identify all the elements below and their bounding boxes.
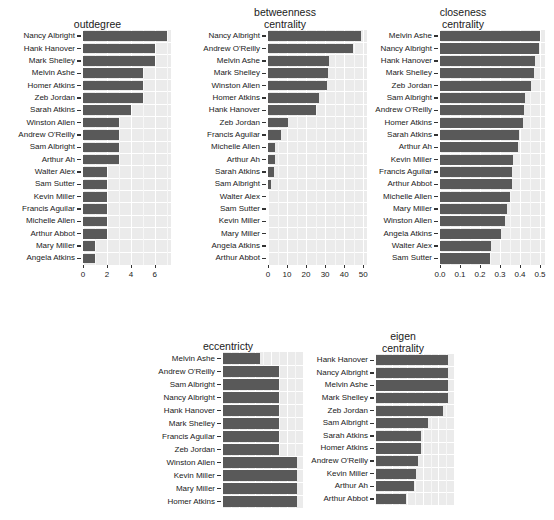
bar	[376, 469, 416, 479]
bar-fill	[376, 443, 421, 453]
chart-title-closeness-centrality: closeness centrality	[372, 6, 554, 30]
bar-fill	[83, 180, 107, 190]
y-axis-label: Mary Miller	[195, 228, 268, 240]
bar	[440, 43, 539, 53]
bar-fill	[223, 496, 297, 507]
y-axis-label: Michelle Allen	[195, 141, 268, 153]
bar	[83, 68, 143, 78]
grid-line-horizontal	[268, 239, 367, 240]
bar	[223, 496, 297, 507]
y-axis-tick-mark	[262, 221, 266, 222]
y-axis-label-text: Sam Sutter	[392, 254, 432, 262]
x-axis-tick-label: 10	[283, 269, 292, 280]
y-axis-label: Hank Hanover	[303, 354, 376, 367]
y-axis-labels-outdegree: Nancy AlbrightHank HanoverMark ShelleyMe…	[0, 30, 83, 265]
y-axis-label-text: Winston Allen	[384, 217, 432, 225]
y-axis-label: Kevin Miller	[133, 469, 223, 482]
grid-line-horizontal	[268, 54, 367, 55]
y-axis-label-text: Hank Hanover	[317, 356, 368, 364]
y-axis-label-text: Melvin Ashe	[325, 381, 368, 389]
y-axis-tick-mark	[77, 97, 81, 98]
chart-panel-eigen-centrality: eigen centrality Hank HanoverNancy Albri…	[303, 330, 503, 505]
y-axis-label: Sarah Atkins	[372, 129, 440, 141]
y-axis-label: Angela Atkins	[195, 240, 268, 252]
y-axis-label-text: Melvin Ashe	[172, 355, 215, 363]
chart-panel-betweenness-centrality: betweenness centrality Nancy AlbrightAnd…	[195, 6, 375, 281]
y-axis-label-text: Sam Sutter	[35, 180, 75, 188]
grid-line-horizontal	[83, 42, 171, 43]
bar-fill	[376, 481, 414, 491]
y-axis-tick-mark	[77, 208, 81, 209]
y-axis-label: Andrew O'Reilly	[303, 455, 376, 468]
y-axis-label: Zeb Jordan	[133, 443, 223, 456]
bar	[440, 229, 501, 239]
y-axis-tick-mark	[262, 73, 266, 74]
y-axis-tick-mark	[370, 385, 374, 386]
x-axis-tick-label: 40	[340, 269, 349, 280]
grid-line-horizontal	[83, 215, 171, 216]
y-axis-label: Mary Miller	[0, 240, 83, 252]
bar-fill	[83, 118, 119, 128]
y-axis-label-text: Zeb Jordan	[328, 407, 368, 415]
y-axis-tick-mark	[77, 258, 81, 259]
y-axis-label: Francis Aguilar	[372, 166, 440, 178]
y-axis-label: Francis Aguilar	[195, 129, 268, 141]
bar	[223, 444, 279, 455]
bar-fill	[440, 130, 519, 140]
y-axis-label: Melvin Ashe	[0, 67, 83, 79]
y-axis-tick-mark	[217, 410, 221, 411]
y-axis-tick-mark	[77, 147, 81, 148]
x-axis-closeness-centrality: 0.00.10.20.30.40.5	[440, 265, 545, 281]
y-axis-label: Walter Alex	[195, 190, 268, 202]
x-axis-tick-mark	[131, 265, 132, 269]
grid-line-horizontal	[268, 141, 367, 142]
y-axis-tick-mark	[370, 410, 374, 411]
grid-line-horizontal	[83, 91, 171, 92]
y-axis-label-text: Francis Aguilar	[162, 433, 215, 441]
y-axis-label: Kevin Miller	[0, 190, 83, 202]
bar-fill	[83, 204, 107, 214]
y-axis-label: Mary Miller	[133, 482, 223, 495]
y-axis-tick-mark	[217, 384, 221, 385]
bar	[83, 118, 119, 128]
bar-fill	[83, 81, 143, 91]
bar-fill	[83, 192, 107, 202]
y-axis-label: Sam Sutter	[0, 178, 83, 190]
y-axis-label-text: Andrew O'Reilly	[311, 457, 368, 465]
x-axis-tick-mark	[500, 265, 501, 269]
y-axis-label-text: Arthur Abbot	[388, 180, 432, 188]
bar	[268, 68, 328, 78]
y-axis-label-text: Kevin Miller	[174, 472, 215, 480]
y-axis-label-text: Nancy Albright	[23, 32, 75, 40]
bar-fill	[440, 241, 491, 251]
y-axis-labels-betweenness-centrality: Nancy AlbrightAndrew O'ReillyMelvin Ashe…	[195, 30, 268, 265]
y-axis-label: Nancy Albright	[195, 30, 268, 42]
y-axis-tick-mark	[370, 360, 374, 361]
grid-line-major	[363, 30, 364, 265]
y-axis-label: Michelle Allen	[372, 190, 440, 202]
y-axis-label-text: Hank Hanover	[381, 57, 432, 65]
bar-fill	[376, 406, 443, 416]
bar-fill	[440, 216, 505, 226]
y-axis-label-text: Sam Albright	[170, 381, 215, 389]
bar	[223, 379, 279, 390]
y-axis-label-text: Francis Aguilar	[207, 131, 260, 139]
y-axis-label-text: Mark Shelley	[322, 394, 368, 402]
y-axis-label: Sam Albright	[372, 92, 440, 104]
bar-fill	[376, 469, 416, 479]
grid-line-horizontal	[83, 128, 171, 129]
x-axis-tick-label: 0.2	[474, 269, 485, 280]
grid-line-horizontal	[83, 67, 171, 68]
bar	[223, 418, 279, 429]
y-axis-label: Andrew O'Reilly	[195, 42, 268, 54]
plot-area-outdegree	[83, 30, 171, 265]
y-axis-label: Kevin Miller	[195, 215, 268, 227]
bar	[440, 130, 519, 140]
y-axis-label-text: Sarah Atkins	[323, 432, 368, 440]
bar-fill	[223, 366, 279, 377]
bar	[268, 180, 271, 190]
y-axis-label: Mark Shelley	[303, 392, 376, 405]
bar	[376, 406, 443, 416]
grid-line-minor	[335, 30, 336, 265]
bar	[376, 431, 421, 441]
